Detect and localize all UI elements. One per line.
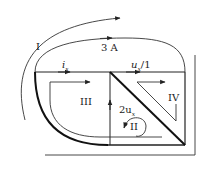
loop-label-III: III xyxy=(80,97,92,107)
loop-label-I: I xyxy=(36,42,40,52)
loop-label-IV: IV xyxy=(168,93,179,103)
diagram-svg xyxy=(0,0,205,169)
vccs-label: ux/1 xyxy=(131,60,151,72)
mesh-loop-diagram: I 3 A ix ux/1 III IV 2ux II xyxy=(0,0,205,169)
current-source-label: 3 A xyxy=(101,43,118,53)
loop-label-II: II xyxy=(130,122,138,132)
current-ix-label: ix xyxy=(62,60,69,72)
vcvs-label: 2ux xyxy=(119,105,135,117)
loop-I-arrow xyxy=(21,18,120,120)
